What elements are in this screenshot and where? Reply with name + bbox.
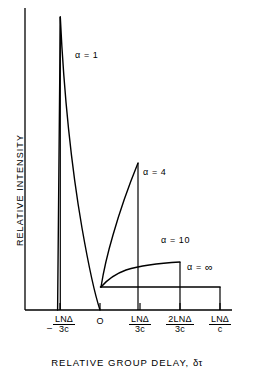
curve-alpha-10 — [101, 262, 180, 310]
x-axis-title-symbol: δτ — [193, 357, 203, 368]
minus-sign: – — [47, 324, 53, 333]
y-axis-title: RELATIVE INTENSITY — [15, 115, 25, 265]
infinity-symbol: ∞ — [205, 261, 213, 273]
fraction-neg: LNΔ3c — [53, 315, 75, 335]
x-axis-ticks — [60, 303, 220, 310]
x-axis-title-main: RELATIVE GROUP DELAY, — [51, 357, 189, 368]
x-tick-label-negative: –LNΔ3c — [30, 315, 92, 335]
curve-alpha-1-decay — [60, 17, 100, 310]
x-tick-label-plus3: LNΔc — [200, 315, 240, 335]
curve-alpha-10-rise — [101, 262, 180, 287]
curve-label-alpha-infinity-prefix: α = — [187, 262, 205, 272]
curve-label-alpha-4: α = 4 — [143, 167, 166, 177]
curve-alpha-4 — [101, 163, 138, 310]
fraction-denominator: 3c — [129, 325, 151, 334]
fraction-denominator: 3c — [166, 325, 193, 334]
fraction-denominator: 3c — [53, 325, 75, 334]
fraction-p3: LNΔc — [209, 315, 231, 335]
x-axis-title: RELATIVE GROUP DELAY, δτ — [0, 357, 254, 368]
curve-alpha-1 — [58, 17, 100, 310]
fraction-p1: LNΔ3c — [129, 315, 151, 335]
x-tick-label-origin: O — [86, 317, 114, 326]
curve-alpha-infinity — [101, 287, 221, 310]
figure-root: α = 1 α = 4 α = 10 α = ∞ RELATIVE INTENS… — [0, 0, 254, 381]
curve-label-alpha-10: α = 10 — [161, 235, 190, 245]
fraction-p2: 2LNΔ3c — [166, 315, 193, 335]
fraction-denominator: c — [209, 325, 231, 334]
curve-label-alpha-1: α = 1 — [75, 50, 98, 60]
curve-label-alpha-infinity: α = ∞ — [187, 262, 213, 272]
